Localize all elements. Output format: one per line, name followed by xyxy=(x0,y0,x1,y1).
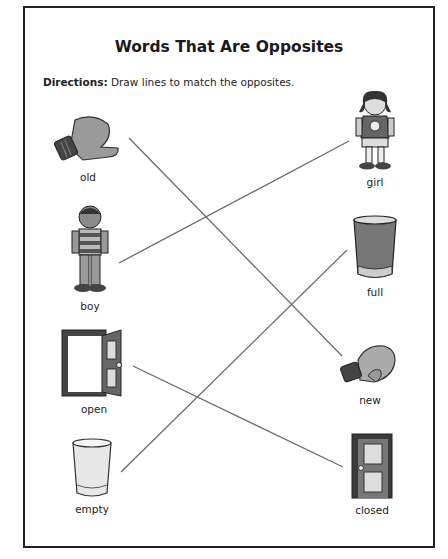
directions: Directions: Draw lines to match the oppo… xyxy=(43,76,294,88)
closed-door-icon xyxy=(350,432,394,500)
item-old: old xyxy=(52,112,124,183)
word-label: open xyxy=(58,403,130,415)
open-door-icon xyxy=(59,327,129,399)
item-open: open xyxy=(58,327,130,415)
word-label: old xyxy=(52,171,124,183)
girl-icon xyxy=(353,90,397,172)
boy-icon xyxy=(67,204,113,296)
item-closed: closed xyxy=(348,432,396,516)
word-label: closed xyxy=(348,504,396,516)
empty-glass-icon xyxy=(69,437,115,499)
item-girl: girl xyxy=(350,90,400,188)
word-label: new xyxy=(334,394,406,406)
new-mitten-icon xyxy=(340,342,400,390)
directions-label: Directions: xyxy=(43,76,108,88)
full-glass-icon xyxy=(351,214,399,282)
item-new: new xyxy=(334,342,406,406)
word-label: girl xyxy=(350,176,400,188)
item-full: full xyxy=(349,214,401,298)
directions-text: Draw lines to match the opposites. xyxy=(108,76,295,88)
word-label: full xyxy=(349,286,401,298)
worksheet-title: Words That Are Opposites xyxy=(25,38,433,56)
word-label: boy xyxy=(64,300,116,312)
item-boy: boy xyxy=(64,204,116,312)
word-label: empty xyxy=(64,503,120,515)
worn-mitten-icon xyxy=(53,112,123,167)
item-empty: empty xyxy=(64,437,120,515)
